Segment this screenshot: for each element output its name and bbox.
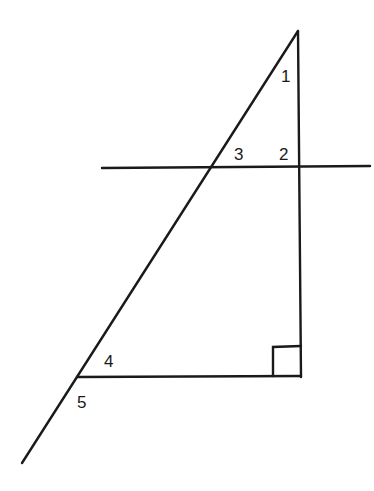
angle-label-5: 5	[77, 393, 86, 412]
base-line	[77, 376, 301, 377]
angle-label-2: 2	[279, 145, 288, 164]
angle-label-4: 4	[104, 352, 113, 371]
right-angle-marker	[273, 346, 301, 376]
angle-label-1: 1	[281, 67, 290, 86]
vertical-leg	[298, 31, 301, 377]
diagonal-line	[22, 31, 298, 463]
transversal-line	[102, 166, 370, 168]
geometry-diagram: 1 2 3 4 5	[0, 0, 374, 491]
angle-label-3: 3	[234, 145, 243, 164]
